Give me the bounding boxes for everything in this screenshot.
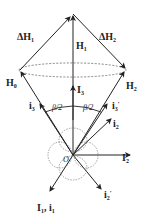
label-h1: H1 bbox=[76, 40, 87, 52]
label-i2: i2 bbox=[113, 118, 119, 130]
label-I2: I2 bbox=[122, 152, 129, 164]
label-origin: O bbox=[63, 155, 69, 164]
label-i3-upper: I3 bbox=[77, 84, 84, 96]
I1-vector bbox=[50, 155, 73, 191]
label-i2-prime: i2′ bbox=[104, 189, 112, 201]
label-beta-right: β/2 bbox=[82, 103, 93, 112]
vector-diagram: ΔH1 ΔH2 H1 H0 H2 I3 i3 i3′ β/2 β/2 i2 I2… bbox=[0, 0, 143, 219]
delta-h1-vector bbox=[20, 17, 70, 70]
label-h0: H0 bbox=[6, 77, 17, 89]
label-i3-prime: i3′ bbox=[112, 100, 120, 112]
label-h2: H2 bbox=[126, 80, 137, 92]
label-delta-h1: ΔH1 bbox=[17, 31, 34, 43]
label-beta-left: β/2 bbox=[51, 103, 62, 112]
label-i3: i3 bbox=[29, 100, 35, 112]
label-delta-h2: ΔH2 bbox=[99, 31, 116, 43]
label-I1-i1: I1, i1 bbox=[37, 202, 55, 214]
i2-prime-vector bbox=[73, 155, 101, 189]
